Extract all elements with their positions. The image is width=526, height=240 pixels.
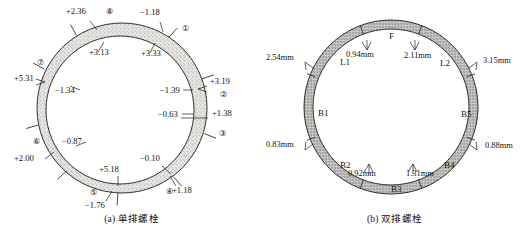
gap-0-92mm: 0.92mm xyxy=(348,169,376,178)
ring-annulus-b xyxy=(263,0,526,240)
ring-label-F: F xyxy=(389,31,394,41)
label-minus-1-18: −1.18 xyxy=(140,7,160,17)
caption-panel-b: (b) 双排螺栓 xyxy=(263,211,526,225)
ring-annulus-a xyxy=(0,0,263,240)
label-plus-3-19: +3.19 xyxy=(210,76,230,86)
label-plus-5-31: +5.31 xyxy=(14,73,34,83)
label-minus-1-34: −1.34 xyxy=(55,85,76,95)
gap-1-31mm: 1.31mm xyxy=(406,169,434,178)
diagram-a-svg: +2.36 −1.18 +3.19 +1.38 +1.18 −1.76 +2.0… xyxy=(0,0,263,240)
ring-label-B1: B1 xyxy=(318,108,329,118)
gap-0-88mm: 0.88mm xyxy=(485,141,513,150)
caption-panel-a: (a) 单排螺栓 xyxy=(0,211,263,225)
ring-label-B5: B5 xyxy=(461,109,472,119)
segment-number-3: ③ xyxy=(219,129,226,138)
ring-label-B3: B3 xyxy=(391,184,402,194)
segment-number-1: ① xyxy=(182,24,189,33)
label-plus-1-38: +1.38 xyxy=(212,108,232,118)
label-minus-1-39: −1.39 xyxy=(160,85,180,95)
label-minus-0-87: −0.87 xyxy=(62,136,83,146)
gap-3-15mm: 3.15mm xyxy=(483,56,511,65)
label-plus-3-13: +3.13 xyxy=(89,47,109,57)
panel-single-row-bolts: +2.36 −1.18 +3.19 +1.38 +1.18 −1.76 +2.0… xyxy=(0,0,263,240)
gap-2-11mm: 2.11mm xyxy=(404,51,432,60)
label-plus-3-33: +3.33 xyxy=(141,48,161,58)
panel-double-row-bolts: F L1 L2 B1 B5 B2 B4 B3 0.94mm 2.11mm 2.5… xyxy=(263,0,526,240)
figure-root: +2.36 −1.18 +3.19 +1.38 +1.18 −1.76 +2.0… xyxy=(0,0,526,240)
label-minus-0-10: −0.10 xyxy=(140,153,160,163)
ring-label-B4: B4 xyxy=(444,160,455,170)
label-plus-2-00: +2.00 xyxy=(14,153,34,163)
label-plus-5-18: +5.18 xyxy=(99,164,119,174)
gap-0-83mm: 0.83mm xyxy=(266,140,294,149)
segment-number-7: ⑦ xyxy=(37,58,44,67)
label-plus-1-18: +1.18 xyxy=(172,185,192,195)
gap-0-94mm: 0.94mm xyxy=(346,50,374,59)
label-plus-2-36: +2.36 xyxy=(66,6,87,16)
segment-number-6: ⑥ xyxy=(33,137,40,146)
segment-number-2: ② xyxy=(220,90,227,99)
segment-number-5: ⑤ xyxy=(90,188,97,197)
gap-2-54mm: 2.54mm xyxy=(266,53,294,62)
segment-number-8: ⑧ xyxy=(106,7,113,16)
label-minus-1-76: −1.76 xyxy=(85,200,106,210)
segment-number-4: ④ xyxy=(166,187,173,196)
label-minus-0-63: −0.63 xyxy=(158,109,178,119)
diagram-b-svg: F L1 L2 B1 B5 B2 B4 B3 0.94mm 2.11mm 2.5… xyxy=(263,0,526,240)
ring-label-L2: L2 xyxy=(440,58,450,68)
